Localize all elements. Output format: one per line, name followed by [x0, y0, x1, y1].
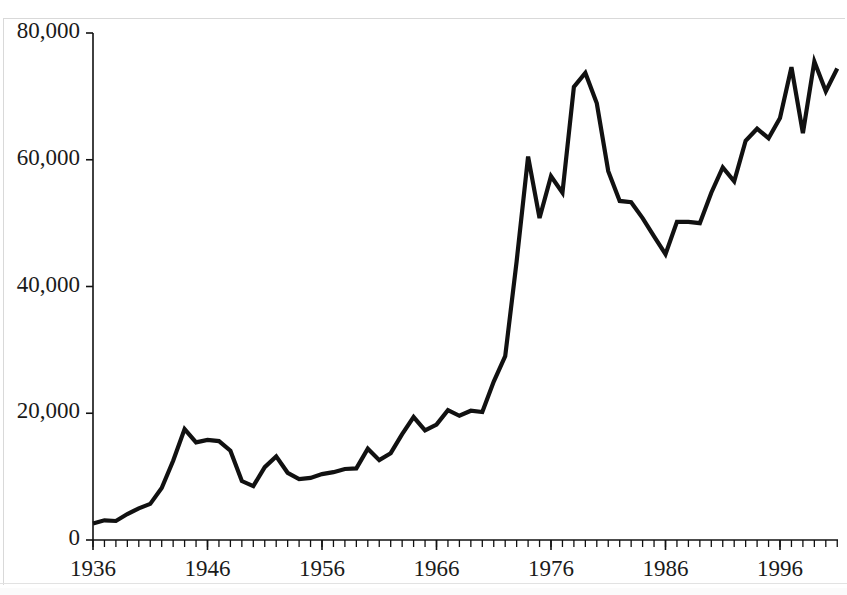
x-tick-label: 1986: [626, 556, 706, 582]
y-axis-group: [86, 33, 93, 540]
y-tick-label: 60,000: [17, 145, 80, 171]
x-axis-minor-tick-marks: [93, 540, 837, 547]
x-axis-group: [93, 540, 838, 550]
x-tick-label: 1946: [168, 556, 248, 582]
x-tick-label: 1996: [740, 556, 820, 582]
x-tick-label: 1956: [282, 556, 362, 582]
y-tick-label: 20,000: [17, 398, 80, 424]
x-tick-label: 1936: [53, 556, 133, 582]
y-tick-label: 0: [69, 525, 81, 551]
x-tick-label: 1976: [511, 556, 591, 582]
line-chart-plot: [0, 0, 847, 595]
chart-figure: 020,00040,00060,00080,000 19361946195619…: [0, 0, 847, 595]
y-tick-label: 80,000: [17, 18, 80, 44]
y-axis-tick-marks: [86, 33, 93, 540]
y-tick-label: 40,000: [17, 272, 80, 298]
data-series-line: [93, 62, 837, 524]
x-tick-label: 1966: [397, 556, 477, 582]
